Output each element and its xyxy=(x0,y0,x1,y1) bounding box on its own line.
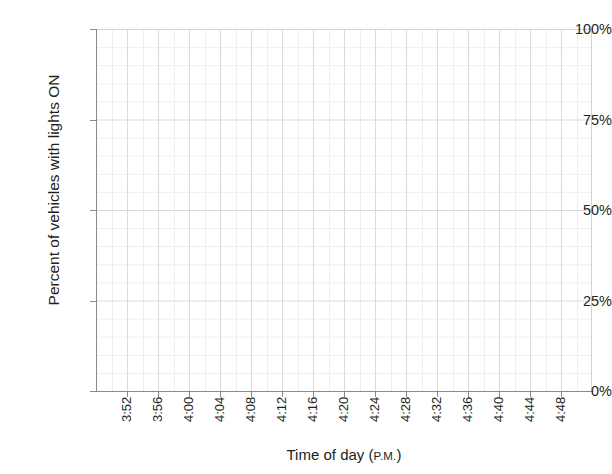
x-tick-mark xyxy=(530,392,531,397)
y-tick-mark xyxy=(90,120,96,121)
x-tick-label: 3:56 xyxy=(151,397,165,441)
x-tick-label: 4:04 xyxy=(213,397,227,441)
x-axis-title-paren-open: ( xyxy=(364,446,373,463)
y-tick-mark xyxy=(90,391,96,392)
chart-figure: 0%25%50%75%100% 3:523:564:004:044:084:12… xyxy=(0,0,612,474)
x-tick-label: 4:28 xyxy=(399,397,413,441)
x-tick-mark xyxy=(158,392,159,397)
x-tick-mark xyxy=(313,392,314,397)
x-tick-mark xyxy=(437,392,438,397)
x-tick-mark xyxy=(468,392,469,397)
x-tick-mark xyxy=(127,392,128,397)
x-axis-title-suffix: P.M. xyxy=(374,450,397,462)
x-tick-mark xyxy=(282,392,283,397)
x-tick-label: 4:48 xyxy=(554,397,568,441)
x-tick-label: 4:40 xyxy=(492,397,506,441)
x-tick-mark xyxy=(251,392,252,397)
x-axis-title-text: Time of day xyxy=(287,446,365,463)
y-axis-line xyxy=(96,29,97,392)
plot-border xyxy=(96,29,592,391)
y-axis-title: Percent of vehicles with lights ON xyxy=(45,9,63,371)
x-tick-mark xyxy=(344,392,345,397)
y-tick-label: 0% xyxy=(526,383,612,399)
x-tick-mark xyxy=(220,392,221,397)
x-tick-mark xyxy=(406,392,407,397)
y-tick-mark xyxy=(90,301,96,302)
x-tick-label: 4:20 xyxy=(337,397,351,441)
x-tick-label: 4:00 xyxy=(182,397,196,441)
x-tick-mark xyxy=(499,392,500,397)
x-tick-label: 3:52 xyxy=(120,397,134,441)
x-tick-label: 4:12 xyxy=(275,397,289,441)
x-tick-label: 4:08 xyxy=(244,397,258,441)
plot-area xyxy=(96,29,592,391)
x-axis-title: Time of day (P.M.) xyxy=(96,446,592,463)
x-axis-title-paren-close: ) xyxy=(396,446,401,463)
chart-title-remnant xyxy=(96,0,566,5)
x-tick-label: 4:16 xyxy=(306,397,320,441)
x-tick-mark xyxy=(375,392,376,397)
x-tick-label: 4:32 xyxy=(430,397,444,441)
x-tick-mark xyxy=(189,392,190,397)
x-tick-label: 4:36 xyxy=(461,397,475,441)
y-tick-label: 75% xyxy=(526,112,612,128)
y-tick-label: 25% xyxy=(526,293,612,309)
x-tick-label: 4:44 xyxy=(523,397,537,441)
x-tick-label: 4:24 xyxy=(368,397,382,441)
y-tick-mark xyxy=(90,210,96,211)
y-tick-label: 100% xyxy=(526,21,612,37)
x-tick-mark xyxy=(561,392,562,397)
y-tick-mark xyxy=(90,29,96,30)
y-tick-label: 50% xyxy=(526,202,612,218)
